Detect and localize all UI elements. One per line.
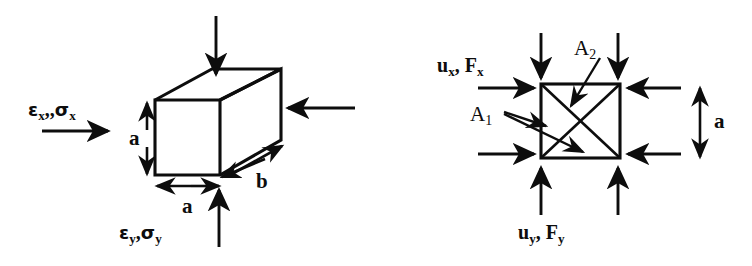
epsilon-x-symbol: ε [28, 99, 38, 120]
label-displacement-force-x: ux, Fx [437, 55, 484, 78]
fy-symbol: F [546, 221, 558, 243]
leader-a1-lower [504, 114, 583, 152]
cube-front-face [155, 100, 220, 175]
epsilon-x-subscript: x [38, 108, 45, 123]
label-area-1: A1 [470, 104, 492, 128]
label-strain-stress-y: εy,σy [119, 222, 162, 245]
ux-symbol: u [437, 54, 448, 76]
a1-symbol: A [470, 102, 485, 126]
sigma-x-subscript: x [69, 108, 76, 123]
label-square-side-a: a [714, 111, 725, 132]
sigma-y-subscript: y [155, 231, 162, 246]
sigma-y-symbol: σ [141, 222, 155, 243]
label-cube-depth-b: b [256, 171, 268, 192]
label-cube-width-a: a [182, 196, 193, 217]
label-area-2: A2 [574, 38, 596, 62]
uy-subscript: y [529, 231, 536, 246]
figure-vector-layer [0, 0, 752, 266]
cube-right-face [220, 69, 281, 175]
leader-a2 [571, 58, 600, 106]
fx-symbol: F [465, 54, 477, 76]
a2-subscript: 2 [589, 47, 596, 62]
epsilon-y-subscript: y [129, 231, 136, 246]
a1-subscript: 1 [485, 113, 492, 128]
cube-top-face [155, 69, 281, 100]
label-displacement-force-y: uy, Fy [518, 222, 565, 245]
square-body [541, 84, 620, 158]
a2-symbol: A [574, 36, 589, 60]
epsilon-y-symbol: ε [119, 222, 129, 243]
label-cube-height-a: a [129, 128, 140, 149]
ux-subscript: x [448, 64, 455, 79]
cube-load-arrows [42, 16, 355, 247]
x-force-separator: , [455, 54, 465, 76]
fy-subscript: y [558, 231, 565, 246]
label-strain-stress-x: εx,,σx [28, 99, 76, 122]
x-load-separator: ,, [45, 98, 55, 120]
figure-canvas: εx,,σx εy,σy a a b ux, Fx uy, Fy A2 A1 a [0, 0, 752, 266]
uy-symbol: u [518, 221, 529, 243]
fx-subscript: x [477, 64, 484, 79]
sigma-x-symbol: σ [55, 99, 69, 120]
square-leader-arrows [504, 58, 600, 152]
y-force-separator: , [536, 221, 546, 243]
